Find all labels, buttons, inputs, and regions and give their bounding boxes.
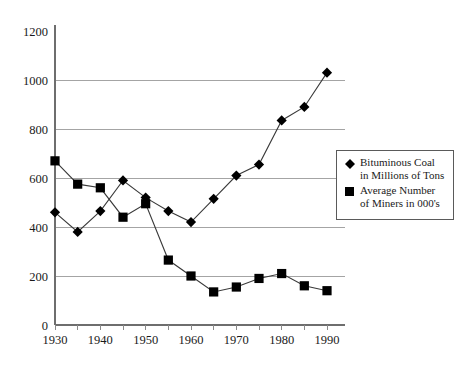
legend-label-bituminous-coal: Bituminous Coalin Millions of Tons	[360, 156, 444, 181]
y-tick-label-1200: 1200	[23, 25, 48, 39]
x-tick-label-1940: 1940	[88, 333, 113, 347]
legend-entry-bituminous-coal: Bituminous Coalin Millions of Tons	[344, 156, 447, 181]
legend-label-line1: Bituminous Coal	[360, 156, 435, 168]
x-tick-label-1950: 1950	[133, 333, 158, 347]
square-marker-icon	[344, 184, 357, 199]
data-point-marker	[73, 180, 82, 189]
y-tick-label-400: 400	[29, 221, 48, 235]
data-point-marker	[299, 102, 309, 112]
data-point-marker	[254, 159, 264, 169]
chart-container: 0200400600800100012001930194019501960197…	[0, 0, 468, 366]
legend-entry-miners: Average Numberof Miners in 000's	[344, 184, 447, 209]
legend-label-line2: in Millions of Tons	[360, 169, 444, 181]
data-point-marker	[50, 156, 59, 165]
x-tick-label-1930: 1930	[43, 333, 68, 347]
data-point-marker	[322, 286, 331, 295]
data-point-marker	[163, 206, 173, 216]
data-point-marker	[300, 281, 309, 290]
y-tick-label-1000: 1000	[23, 74, 48, 88]
x-tick-label-1960: 1960	[179, 333, 204, 347]
data-point-marker	[118, 175, 128, 185]
diamond-marker-icon	[344, 156, 357, 171]
data-point-marker	[322, 68, 332, 78]
data-point-marker	[277, 115, 287, 125]
series-bituminous-coal	[50, 68, 332, 237]
chart-legend: Bituminous Coalin Millions of Tons Avera…	[336, 150, 454, 220]
y-tick-label-0: 0	[42, 319, 48, 333]
data-point-marker	[254, 274, 263, 283]
series-line	[55, 73, 327, 232]
x-tick-label-1990: 1990	[315, 333, 340, 347]
data-point-marker	[186, 271, 195, 280]
data-point-marker	[141, 199, 150, 208]
y-tick-label-800: 800	[29, 123, 48, 137]
legend-label-miners: Average Numberof Miners in 000's	[360, 184, 440, 209]
data-point-marker	[209, 287, 218, 296]
legend-label-line1: Average Number	[360, 184, 435, 196]
x-tick-label-1970: 1970	[224, 333, 249, 347]
y-tick-label-200: 200	[29, 270, 48, 284]
data-point-marker	[118, 213, 127, 222]
x-tick-label-1980: 1980	[269, 333, 294, 347]
data-point-marker	[232, 282, 241, 291]
y-tick-label-600: 600	[29, 172, 48, 186]
legend-label-line2: of Miners in 000's	[360, 197, 440, 209]
data-point-marker	[164, 255, 173, 264]
data-point-marker	[277, 269, 286, 278]
data-point-marker	[96, 183, 105, 192]
